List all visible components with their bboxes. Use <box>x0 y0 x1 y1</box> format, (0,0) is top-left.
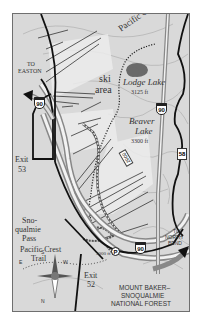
label-exit-52: Exit <box>84 272 97 280</box>
label-to-easton-2: EASTON <box>18 68 42 74</box>
label-forest-name: MOUNT BAKER– <box>119 285 170 292</box>
label-ski-area: ski <box>99 74 111 84</box>
label-exit-52-num: 52 <box>87 281 95 289</box>
label-to-north-bend-3: BEND <box>168 241 182 246</box>
parking-icon: P <box>111 247 120 256</box>
label-ski-area-2: area <box>95 85 112 95</box>
label-snoqualmie-pass-3: Pass <box>22 235 36 243</box>
interstate-90-shield-east: 90 <box>156 103 167 115</box>
compass-south: S <box>41 250 44 255</box>
interstate-90-shield-west: 90 <box>34 97 45 109</box>
map-canvas <box>13 14 190 312</box>
label-beaver-lake: Beaver <box>129 117 154 126</box>
label-snoqualmie-pass-2: qualmie <box>15 226 41 234</box>
label-lodge-lake: Lodge Lake <box>123 78 165 87</box>
compass-north: N <box>41 299 45 304</box>
compass-east: E <box>19 260 22 265</box>
label-beaver-lake-elevation: 3300 ft <box>131 138 148 144</box>
label-exit-53: Exit <box>15 156 28 164</box>
label-pct-south-2: Trail <box>31 255 46 263</box>
label-to-easton: TO <box>27 61 35 67</box>
label-lodge-lake-elevation: 3125 ft <box>131 89 148 95</box>
interstate-90-shield-south: 90 <box>135 242 146 254</box>
map-frame: Pacific Crest Trail Lodge Lake 3125 ft B… <box>12 13 190 312</box>
label-forest-name-3: NATIONAL FOREST <box>111 301 171 308</box>
label-elevation-3000: 3000 ft <box>96 251 110 256</box>
label-snoqualmie-pass: Sno- <box>22 217 37 225</box>
state-route-58-sign: 58 <box>177 148 187 160</box>
label-beaver-lake-2: Lake <box>135 127 153 136</box>
label-exit-53-num: 53 <box>18 166 26 174</box>
compass-west: W <box>63 260 68 265</box>
label-forest-name-2: SNOQUALMIE <box>121 293 164 300</box>
